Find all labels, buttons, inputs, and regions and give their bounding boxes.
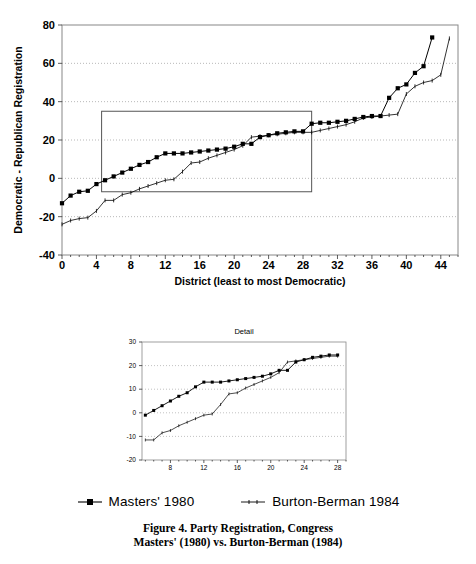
x-tick-label: 16 <box>194 259 206 271</box>
series-line-1 <box>62 38 449 224</box>
x-tick-label: 12 <box>200 464 208 471</box>
caption-line-1: Figure 4. Party Registration, Congress <box>0 522 476 536</box>
y-tick-label: 60 <box>43 57 55 69</box>
data-point-square <box>211 381 214 384</box>
x-tick-label: 8 <box>128 259 134 271</box>
legend-item-burton-berman: Burton-Berman 1984 <box>240 494 399 509</box>
data-point-square <box>227 379 230 382</box>
x-axis-title: District (least to most Democratic) <box>175 275 346 287</box>
data-point-square <box>413 71 417 75</box>
figure-caption: Figure 4. Party Registration, Congress M… <box>0 522 476 550</box>
data-point-square <box>249 142 253 146</box>
y-tick-label: 80 <box>43 19 55 31</box>
data-point-square <box>261 375 264 378</box>
data-point-square <box>186 391 189 394</box>
y-tick-label: 30 <box>129 338 137 345</box>
legend-label-masters: Masters' 1980 <box>109 494 195 509</box>
x-tick-label: 28 <box>334 464 342 471</box>
data-point-square <box>60 201 64 205</box>
data-point-square <box>189 150 193 154</box>
y-tick-label: 10 <box>129 385 137 392</box>
y-tick-label: -20 <box>39 211 55 223</box>
main-chart: 048121620242832364044-40-20020406080Dist… <box>0 0 476 300</box>
x-tick-label: 24 <box>262 259 275 271</box>
data-point-square <box>172 151 176 155</box>
data-point-square <box>169 400 172 403</box>
x-tick-label: 28 <box>297 259 309 271</box>
chart-title: Detail <box>234 327 254 336</box>
x-tick-label: 20 <box>228 259 240 271</box>
x-tick-label: 32 <box>331 259 343 271</box>
data-point-square <box>152 409 155 412</box>
x-tick-label: 20 <box>267 464 275 471</box>
data-point-square <box>396 86 400 90</box>
data-point-square <box>344 119 348 123</box>
series-line-0 <box>145 355 337 415</box>
x-tick-label: 44 <box>435 259 448 271</box>
data-point-square <box>269 372 272 375</box>
data-point-square <box>137 163 141 167</box>
caption-line-2: Masters' (1980) vs. Burton-Berman (1984) <box>0 536 476 550</box>
data-point-square <box>69 193 73 197</box>
data-point-square <box>146 160 150 164</box>
data-point-square <box>223 147 227 151</box>
series-line-1 <box>145 356 337 440</box>
y-tick-label: 20 <box>129 362 137 369</box>
data-point-square <box>155 155 159 159</box>
data-point-square <box>430 35 434 39</box>
legend-label-burton-berman: Burton-Berman 1984 <box>272 494 399 509</box>
data-point-square <box>286 369 289 372</box>
figure-root: 048121620242832364044-40-20020406080Dist… <box>0 0 476 564</box>
data-point-square <box>387 96 391 100</box>
x-tick-label: 24 <box>301 464 309 471</box>
data-point-square <box>215 147 219 151</box>
x-tick-label: 8 <box>169 464 173 471</box>
x-tick-label: 40 <box>400 259 412 271</box>
x-tick-label: 16 <box>234 464 242 471</box>
data-point-square <box>253 376 256 379</box>
y-tick-label: 0 <box>132 409 136 416</box>
data-point-square <box>180 151 184 155</box>
data-point-square <box>194 385 197 388</box>
series-line-0 <box>62 37 432 203</box>
legend-swatch-plain-line <box>240 496 266 508</box>
data-point-square <box>404 82 408 86</box>
data-point-square <box>86 189 90 193</box>
data-point-square <box>120 170 124 174</box>
legend-item-masters: Masters' 1980 <box>77 494 195 509</box>
x-tick-label: 4 <box>93 259 100 271</box>
data-point-square <box>129 167 133 171</box>
y-tick-label: 0 <box>49 172 55 184</box>
data-point-square <box>163 151 167 155</box>
y-tick-label: -10 <box>127 433 137 440</box>
chart-legend: Masters' 1980 Burton-Berman 1984 <box>0 494 476 520</box>
y-tick-label: 20 <box>43 134 55 146</box>
data-point-square <box>202 381 205 384</box>
data-point-square <box>421 64 425 68</box>
data-point-square <box>77 190 81 194</box>
data-point-square <box>94 182 98 186</box>
data-point-square <box>103 178 107 182</box>
y-tick-label: 40 <box>43 96 55 108</box>
data-point-square <box>112 174 116 178</box>
data-point-square <box>236 378 239 381</box>
y-axis-title: Democratic - Republican Registration <box>12 46 24 233</box>
x-tick-label: 12 <box>159 259 171 271</box>
data-point-square <box>177 395 180 398</box>
legend-swatch-square-line <box>77 496 103 508</box>
data-point-square <box>310 122 314 126</box>
data-point-square <box>219 381 222 384</box>
x-tick-label: 0 <box>59 259 65 271</box>
data-point-square <box>318 121 322 125</box>
data-point-square <box>161 404 164 407</box>
data-point-square <box>206 148 210 152</box>
data-point-square <box>244 377 247 380</box>
data-point-square <box>198 149 202 153</box>
data-point-square <box>327 121 331 125</box>
detail-chart: 81216202428-20-100102030Detail <box>100 312 360 492</box>
x-tick-label: 36 <box>366 259 378 271</box>
plot-frame <box>142 342 346 460</box>
data-point-square <box>144 414 147 417</box>
y-tick-label: -20 <box>127 456 137 463</box>
y-tick-label: -40 <box>39 249 55 261</box>
